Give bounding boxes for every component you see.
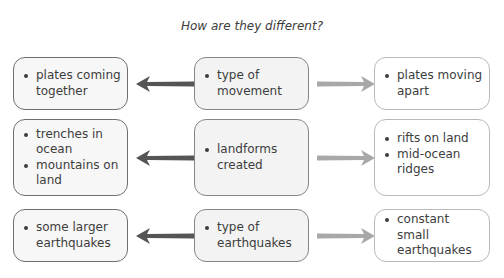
list-item: mountains on land (23, 158, 121, 189)
diverging-box-landforms: rifts on land mid-ocean ridges (374, 119, 490, 196)
bullet-list: plates coming together (23, 68, 121, 99)
arrow-right-icon (317, 150, 375, 166)
list-item: plates moving apart (384, 68, 483, 99)
list-item: rifts on land (384, 131, 483, 147)
converging-box-earthquakes: some larger earthquakes (13, 209, 128, 262)
diverging-box-earthquakes: constant small earthquakes (374, 209, 490, 262)
bullet-list: landforms created (204, 142, 302, 173)
list-item: plates coming together (23, 68, 121, 99)
arrow-left-icon (136, 150, 194, 166)
arrow-left-icon (136, 228, 194, 244)
diagram-title: How are they different? (0, 19, 504, 33)
list-item: type of earthquakes (204, 220, 302, 251)
converging-box-movement: plates coming together (13, 57, 128, 110)
bullet-list: type of movement (204, 68, 302, 99)
arrow-left-icon (136, 76, 194, 92)
list-item: trenches in ocean (23, 127, 121, 158)
bullet-list: some larger earthquakes (23, 220, 121, 251)
bullet-list: rifts on land mid-ocean ridges (384, 131, 483, 178)
list-item: type of movement (204, 68, 302, 99)
bullet-list: type of earthquakes (204, 220, 302, 251)
bullet-list: plates moving apart (384, 68, 483, 99)
arrow-right-icon (317, 228, 375, 244)
criteria-box-landforms: landforms created (194, 119, 309, 196)
list-item: mid-ocean ridges (384, 147, 483, 178)
list-item: landforms created (204, 142, 302, 173)
diverging-box-movement: plates moving apart (374, 57, 490, 110)
bullet-list: trenches in ocean mountains on land (23, 127, 121, 189)
list-item: some larger earthquakes (23, 220, 121, 251)
arrow-right-icon (317, 76, 375, 92)
criteria-box-earthquakes: type of earthquakes (194, 209, 309, 262)
list-item: constant small earthquakes (384, 212, 483, 259)
converging-box-landforms: trenches in ocean mountains on land (13, 119, 128, 196)
criteria-box-movement: type of movement (194, 57, 309, 110)
bullet-list: constant small earthquakes (384, 212, 483, 259)
